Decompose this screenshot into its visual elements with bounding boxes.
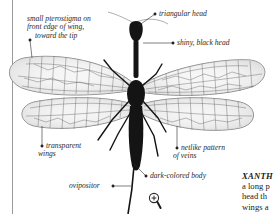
caption: XANTH a long p head th wings a	[242, 171, 273, 212]
label-line: toward the tip	[27, 32, 91, 40]
caption-line: head th	[242, 191, 273, 201]
caption-title: XANTH	[242, 171, 273, 181]
right-forewing	[140, 60, 265, 96]
label-dark-body: dark-colored body	[150, 172, 206, 180]
caption-line: wings a	[242, 202, 273, 212]
caption-line: a long p	[242, 181, 273, 191]
label-line: wings	[38, 150, 81, 158]
label-line: of veins	[173, 152, 225, 160]
magnifier-plus-icon[interactable]	[148, 192, 162, 210]
insect-body	[127, 21, 145, 214]
left-hindwing	[22, 97, 132, 129]
label-netlike-veins: netlike pattern of veins	[173, 144, 225, 161]
label-ovipositor: ovipositor	[69, 182, 100, 190]
label-triangular-head: triangular head	[159, 10, 207, 18]
label-transparent-wings: transparent wings	[38, 142, 81, 159]
right-hindwing	[142, 97, 254, 130]
label-pterostigma: small pterostigma on front edge of wing,…	[27, 15, 91, 40]
book-page: small pterostigma on front edge of wing,…	[0, 0, 274, 214]
left-forewing	[9, 56, 134, 95]
label-shiny-black-head: shiny, black head	[177, 39, 230, 47]
